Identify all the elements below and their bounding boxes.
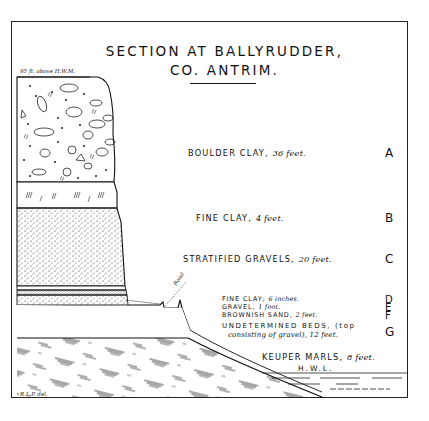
keuper-marls-layer (17, 330, 322, 397)
credit-label: R.L.P. del. (20, 391, 48, 397)
layer-key-f: F (385, 312, 391, 320)
fine-clay-layer (17, 182, 117, 208)
layer-key-b: B (385, 211, 393, 225)
layer-label-b: FINE CLAY, 4 feet. (196, 213, 284, 223)
layer-label-g-line1: UNDETERMINED BEDS, (top (222, 322, 356, 330)
layer-key-a: A (385, 146, 393, 160)
layer-key-c: C (385, 252, 393, 266)
undetermined-beds-layer (17, 305, 190, 338)
layer-label-d: FINE CLAY; 6 inches. (222, 295, 299, 303)
layer-label-g-line2: consisting of gravel), 12 feet. (228, 331, 338, 339)
boulder-clay-layer (17, 77, 115, 182)
stratified-gravels-layer (17, 208, 125, 286)
layer-label-c: STRATIFIED GRAVELS, 20 feet. (183, 254, 332, 264)
layer-label-f: BROWNISH SAND, 2 feet. (222, 311, 318, 319)
layer-label-e: GRAVEL, 1 foot. (222, 303, 281, 311)
layer-key-g: G (385, 325, 394, 339)
elevation-note: 95 ft. above H.W.M. (20, 68, 75, 74)
hwl-label: H.W.L. (298, 364, 333, 373)
layer-label-a: BOULDER CLAY, 36 feet. (188, 148, 306, 158)
layer-label-keuper-marls: KEUPER MARLS, 8 feet. (262, 352, 375, 362)
title-underline (190, 83, 256, 84)
diagram-title-line1: SECTION AT BALLYRUDDER, (10, 43, 429, 59)
